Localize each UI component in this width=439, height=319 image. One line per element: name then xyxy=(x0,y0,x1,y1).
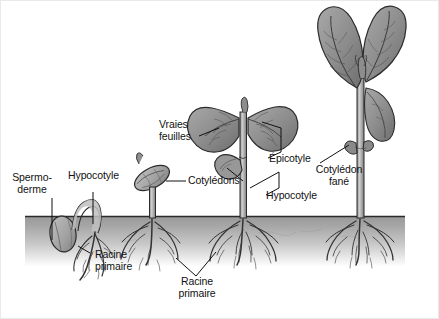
label-racine-primaire-left: Racine primaire xyxy=(95,249,132,272)
label-epicotyle: Épicotyle xyxy=(269,153,311,165)
label-hypocotyle-right: Hypocotyle xyxy=(266,190,317,202)
label-spermoderme: Spermo- derme xyxy=(0,172,64,195)
true-leaf-right-stage-3 xyxy=(248,107,298,152)
true-leaf-left-stage-3 xyxy=(187,107,239,152)
label-vraies-feuilles: Vraies feuilles xyxy=(159,119,191,142)
soil-band xyxy=(25,217,405,267)
germination-diagram: Spermo- derme Hypocotyle Racine primaire… xyxy=(0,0,439,319)
true-leaf-left-stage-4 xyxy=(318,7,363,88)
label-cotyledons: Cotylédons xyxy=(188,175,240,187)
true-leaf-right-stage-4 xyxy=(362,6,406,82)
label-cotyledon-fane: Cotylédon fané xyxy=(306,164,372,187)
leaf-lobe-lower-right-stage-4 xyxy=(365,88,395,141)
diagram-canvas xyxy=(0,0,439,319)
leader-cotyledon-fane xyxy=(320,145,349,163)
label-racine-primaire-center: Racine primaire xyxy=(166,276,228,299)
label-hypocotyle-left: Hypocotyle xyxy=(68,170,119,182)
